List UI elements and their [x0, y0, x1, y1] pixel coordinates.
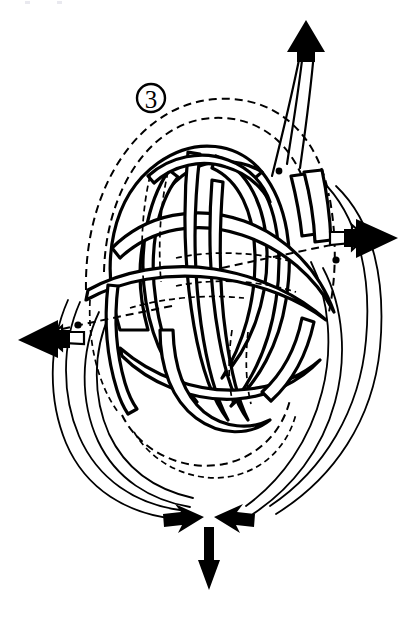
top-arrow	[287, 20, 325, 62]
right-marker-dot	[332, 256, 339, 263]
knot-diagram-canvas: 3	[0, 0, 415, 629]
left-marker-dot	[74, 321, 81, 328]
upper-right-marker-dot	[276, 168, 283, 175]
scan-artifacts	[25, 1, 62, 4]
step-label-text: 3	[145, 86, 158, 113]
step-label: 3	[137, 84, 165, 113]
bottom-down-arrow	[198, 527, 220, 590]
knot-diagram-figure: 3	[0, 0, 415, 629]
